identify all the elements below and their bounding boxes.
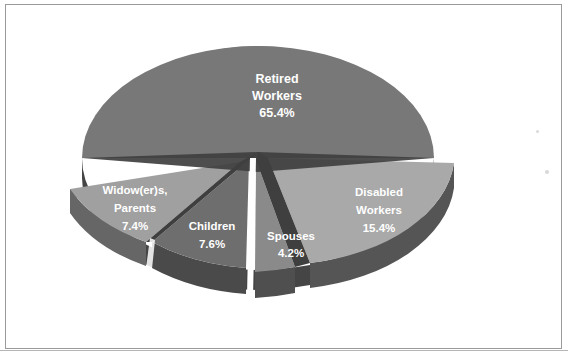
label-children-value: 7.6% <box>199 238 225 250</box>
slice-spouses-side <box>255 267 295 298</box>
label-retired-workers-line1: Retired <box>255 72 298 86</box>
label-retired-workers-line2: Workers <box>252 89 302 103</box>
label-disabled-workers-line1: Disabled <box>355 186 403 198</box>
label-spouses-value: 4.2% <box>278 247 304 259</box>
label-disabled-workers-value: 15.4% <box>363 222 396 234</box>
pie-chart-3d: Retired Workers 65.4% Disabled Workers 1… <box>0 0 568 359</box>
label-retired-workers-value: 65.4% <box>259 106 294 120</box>
chart-page: Retired Workers 65.4% Disabled Workers 1… <box>0 0 568 359</box>
label-children-line1: Children <box>189 220 236 232</box>
label-spouses-line1: Spouses <box>267 230 315 242</box>
label-widowers-parents-line2: Parents <box>114 202 156 214</box>
pie-chart-svg: Retired Workers 65.4% Disabled Workers 1… <box>0 0 568 359</box>
label-widowers-parents-value: 7.4% <box>122 220 148 232</box>
label-retired-workers: Retired Workers 65.4% <box>252 72 302 120</box>
label-disabled-workers-line2: Workers <box>356 204 402 216</box>
label-widowers-parents-line1: Widow(er)s, <box>102 184 167 196</box>
